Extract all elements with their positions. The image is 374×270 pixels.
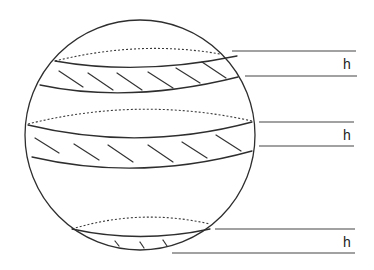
middle-zone-bottom-front-arc: [32, 151, 252, 168]
diagram-canvas: [0, 0, 374, 270]
lower-zone-top-back-arc: [72, 217, 210, 229]
sphere-outline: [25, 20, 255, 250]
lower-zone-hatching: [115, 240, 167, 248]
upper-zone-bottom-front-arc: [40, 77, 238, 93]
upper-zone-top-front-arc: [55, 56, 237, 67]
sphere-zones-diagram: h h h: [0, 0, 374, 270]
middle-zone-height-label: h: [343, 128, 351, 142]
lower-zone-height-label: h: [343, 235, 351, 249]
lower-zone-top-front-arc: [72, 229, 210, 237]
middle-zone-top-front-arc: [28, 122, 252, 138]
upper-zone-height-label: h: [343, 57, 351, 71]
middle-zone-top-back-arc: [28, 109, 252, 124]
middle-zone-hatching: [35, 135, 241, 162]
middle-zone: [28, 109, 252, 168]
upper-zone-hatching: [59, 62, 226, 90]
height-lines: [172, 51, 357, 253]
upper-zone: [40, 48, 238, 92]
upper-zone-top-back-arc: [55, 48, 220, 61]
lower-zone: [72, 217, 210, 248]
